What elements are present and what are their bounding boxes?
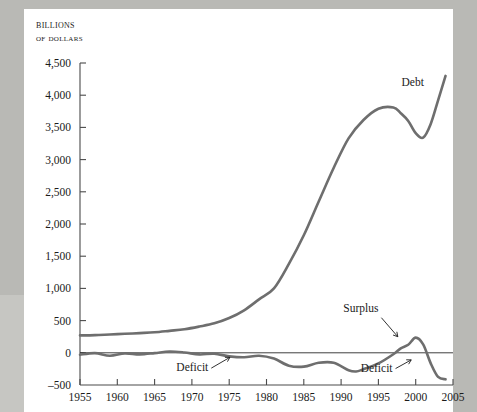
annotation-labels: DebtSurplusDeficitDeficit [176, 76, 424, 373]
x-tick-label: 2000 [404, 391, 427, 403]
x-tick-label: 1975 [218, 391, 241, 403]
y-tick-label: 1,500 [45, 250, 71, 263]
y-tick-label: 2,000 [45, 218, 71, 231]
y-axis-ticks [80, 63, 86, 353]
page-background: Billions of dollars –50005001,0001,5002,… [0, 0, 477, 412]
y-tick-label: 4,000 [45, 89, 71, 102]
x-tick-label: 2005 [442, 391, 465, 403]
x-tick-label: 1965 [143, 391, 166, 403]
leader-line-1 [211, 357, 230, 368]
y-axis-tick-labels: –50005001,0001,5002,0002,5003,0003,5004,… [45, 57, 71, 391]
x-tick-label: 1985 [292, 391, 315, 403]
debt-deficit-chart: –50005001,0001,5002,0002,5003,0003,5004,… [0, 0, 477, 412]
leader-line-0 [381, 318, 397, 337]
y-tick-label: –500 [47, 379, 71, 391]
annotation-deficit-2: Deficit [176, 361, 209, 373]
annotation-deficit-3: Deficit [361, 362, 394, 374]
x-tick-label: 1995 [367, 391, 390, 403]
y-tick-label: 500 [54, 315, 72, 327]
annotation-surplus-1: Surplus [343, 302, 379, 315]
x-tick-label: 1990 [330, 391, 353, 403]
y-tick-label: 0 [65, 347, 71, 359]
series-line-debt [80, 76, 446, 336]
x-tick-label: 1960 [106, 391, 129, 403]
y-tick-label: 1,000 [45, 282, 71, 295]
x-tick-label: 1955 [69, 391, 92, 403]
y-tick-label: 3,500 [45, 121, 71, 134]
y-tick-label: 3,000 [45, 154, 71, 167]
x-axis-ticks [80, 379, 453, 385]
annotation-debt-0: Debt [402, 76, 425, 88]
y-tick-label: 2,500 [45, 186, 71, 199]
x-tick-label: 1980 [255, 391, 278, 403]
y-tick-label: 4,500 [45, 57, 71, 70]
x-tick-label: 1970 [180, 391, 203, 403]
x-axis-tick-labels: 1955196019651970197519801985199019952000… [69, 391, 465, 403]
